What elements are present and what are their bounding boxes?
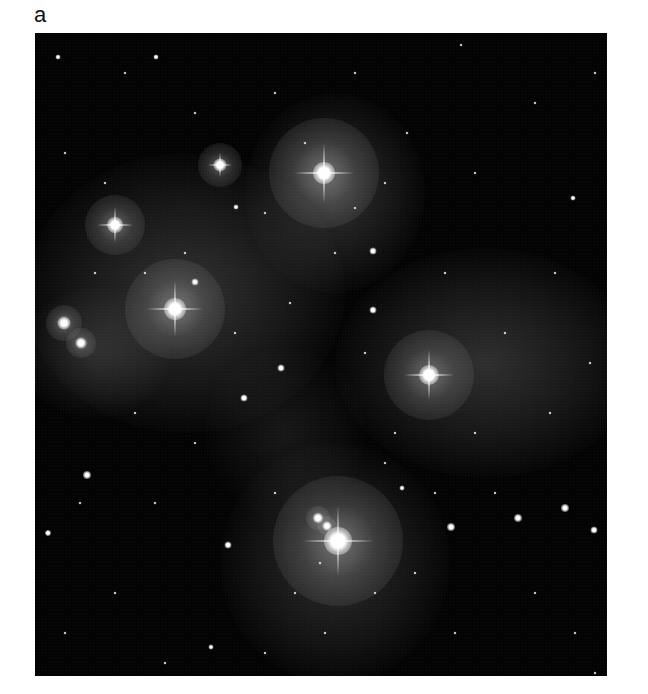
faint-star: [104, 182, 107, 185]
faint-star: [334, 252, 337, 255]
star: [45, 530, 51, 536]
bright-star: [313, 162, 335, 184]
star: [154, 55, 159, 60]
faint-star: [504, 332, 507, 335]
faint-star: [124, 72, 127, 75]
faint-star: [394, 432, 397, 435]
faint-star: [184, 252, 187, 255]
star: [561, 504, 569, 512]
star: [278, 365, 285, 372]
faint-star: [94, 272, 97, 275]
star: [56, 55, 61, 60]
faint-star: [534, 592, 537, 595]
bright-star: [419, 365, 439, 385]
star: [234, 205, 239, 210]
faint-star: [594, 672, 597, 675]
faint-star: [434, 492, 437, 495]
faint-star: [274, 492, 277, 495]
star: [571, 196, 576, 201]
faint-star: [494, 492, 497, 495]
faint-star: [289, 302, 292, 305]
panel-label: a: [34, 2, 46, 28]
faint-star: [164, 662, 167, 665]
bright-star: [164, 298, 186, 320]
faint-star: [194, 442, 197, 445]
faint-star: [549, 412, 552, 415]
faint-star: [594, 72, 597, 75]
faint-star: [294, 592, 297, 595]
star: [447, 523, 455, 531]
star: [241, 395, 248, 402]
faint-star: [444, 272, 447, 275]
faint-star: [264, 212, 267, 215]
pleiades-photograph: [35, 33, 607, 676]
faint-star: [589, 362, 592, 365]
faint-star: [454, 632, 457, 635]
faint-star: [114, 592, 117, 595]
faint-star: [414, 572, 417, 575]
faint-star: [154, 502, 157, 505]
faint-star: [364, 352, 367, 355]
bright-star: [214, 159, 227, 172]
star: [514, 514, 522, 522]
faint-star: [274, 92, 277, 95]
faint-star: [406, 132, 409, 135]
faint-star: [474, 172, 477, 175]
faint-star: [79, 502, 82, 505]
bright-star: [58, 317, 71, 330]
star: [370, 248, 377, 255]
bright-star: [107, 217, 123, 233]
faint-star: [234, 332, 237, 335]
faint-star: [460, 44, 463, 47]
star: [370, 307, 377, 314]
star: [225, 542, 232, 549]
faint-star: [264, 652, 267, 655]
star: [400, 486, 405, 491]
faint-star: [134, 412, 137, 415]
faint-star: [354, 72, 357, 75]
faint-star: [474, 432, 477, 435]
star: [209, 645, 214, 650]
star: [591, 527, 598, 534]
faint-star: [534, 102, 537, 105]
faint-star: [384, 462, 387, 465]
faint-star: [64, 632, 67, 635]
faint-star: [384, 182, 387, 185]
faint-star: [324, 632, 327, 635]
star: [83, 471, 91, 479]
faint-star: [194, 112, 197, 115]
faint-star: [554, 272, 557, 275]
bright-star: [323, 522, 332, 531]
faint-star: [574, 632, 577, 635]
faint-star: [64, 152, 67, 155]
bright-star: [76, 338, 87, 349]
